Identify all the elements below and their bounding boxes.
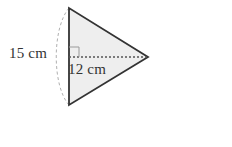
triangle-shape xyxy=(69,8,148,105)
answer-row: (cm2) xyxy=(0,112,232,147)
height-length-label: 12 cm xyxy=(68,61,106,78)
figure-area: 15 cm 12 cm xyxy=(0,0,232,112)
arc-marker-icon xyxy=(56,8,69,105)
side-length-label: 15 cm xyxy=(9,45,47,62)
